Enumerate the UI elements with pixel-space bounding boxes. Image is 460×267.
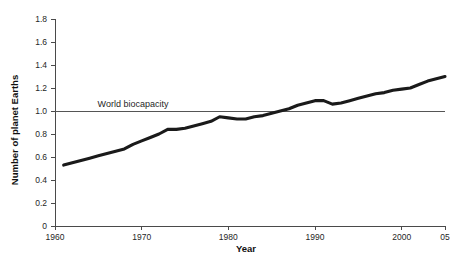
footprint-series-line <box>64 77 445 166</box>
y-tick-label: 1.8 <box>35 14 47 24</box>
x-tick-label: 2000 <box>392 232 411 242</box>
y-tick-label: 0.4 <box>35 175 47 185</box>
y-tick-label: 1.0 <box>35 106 47 116</box>
y-axis-tick-labels: 00.20.40.60.81.01.21.41.61.8 <box>35 14 47 231</box>
x-tick-label: 1980 <box>219 232 238 242</box>
y-tick-label: 1.2 <box>35 83 47 93</box>
ecological-footprint-chart: 00.20.40.60.81.01.21.41.61.8 19601970198… <box>0 0 460 267</box>
y-tick-label: 0.2 <box>35 198 47 208</box>
x-axis-ticks <box>55 226 445 230</box>
x-tick-label: 05 <box>440 232 450 242</box>
x-axis-tick-labels: 1960197019801990200005 <box>46 232 450 242</box>
x-tick-label: 1970 <box>132 232 151 242</box>
x-tick-label: 1990 <box>306 232 325 242</box>
y-tick-label: 1.6 <box>35 37 47 47</box>
y-tick-label: 0.6 <box>35 152 47 162</box>
x-tick-label: 1960 <box>46 232 65 242</box>
y-tick-label: 0.8 <box>35 129 47 139</box>
chart-canvas: 00.20.40.60.81.01.21.41.61.8 19601970198… <box>0 0 460 267</box>
y-axis-title: Number of planet Earths <box>9 75 20 185</box>
y-tick-label: 1.4 <box>35 60 47 70</box>
world-biocapacity-label: World biocapacity <box>98 99 169 109</box>
x-axis-title: Year <box>236 243 256 254</box>
y-tick-label: 0 <box>42 221 47 231</box>
y-axis-ticks <box>51 19 55 226</box>
